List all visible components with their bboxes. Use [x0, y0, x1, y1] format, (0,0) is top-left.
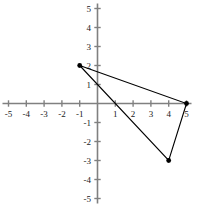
y-tick-label: -3 — [84, 156, 92, 166]
y-tick-label: -5 — [84, 194, 92, 204]
coordinate-plane-chart: -5-4-3-2-11234554321-1-2-3-4-5 — [0, 0, 200, 207]
y-tick-label: -4 — [84, 175, 92, 185]
x-tick-label: -4 — [23, 109, 31, 119]
y-tick-label: -2 — [84, 137, 92, 147]
x-tick-label: -3 — [40, 109, 48, 119]
x-tick-label: 1 — [113, 109, 118, 119]
x-tick-label: -2 — [58, 109, 66, 119]
x-tick-label: -5 — [5, 109, 13, 119]
axis-group — [3, 4, 192, 204]
x-tick-label: 2 — [131, 109, 136, 119]
data-point-marker — [77, 63, 82, 68]
y-tick-label: 1 — [87, 80, 92, 90]
x-tick-label: 3 — [149, 109, 154, 119]
x-tick-label: -1 — [76, 109, 84, 119]
y-tick-label: -1 — [84, 118, 92, 128]
y-tick-label: 4 — [87, 23, 92, 33]
data-point-marker — [184, 101, 189, 106]
y-tick-label: 5 — [87, 4, 92, 14]
x-tick-label: 4 — [166, 109, 171, 119]
y-tick-label: 3 — [87, 42, 92, 52]
data-point-marker — [166, 158, 171, 163]
chart-canvas: -5-4-3-2-11234554321-1-2-3-4-5 — [0, 0, 200, 207]
